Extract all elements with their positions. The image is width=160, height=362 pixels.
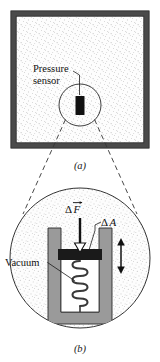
figure-canvas: Pressure sensor (a) (0, 0, 160, 362)
panel-b-label-delta-f: Δ F (65, 201, 82, 215)
delta-f-delta-char: Δ (65, 203, 72, 215)
delta-a-delta-char: Δ (101, 216, 108, 228)
panel-b-label-delta-a: Δ A (101, 216, 117, 228)
caption-b: (b) (74, 343, 87, 355)
panel-b-group: Δ F Δ A Vacuum (b) (5, 188, 150, 355)
panel-b-vacuum-chamber (61, 258, 99, 312)
panel-a-label-pressure: Pressure (33, 63, 69, 74)
panel-a-group: Pressure sensor (a) (11, 11, 149, 172)
delta-a-symbol-char: A (109, 216, 117, 228)
panel-b-label-vacuum: Vacuum (5, 257, 39, 268)
panel-a-label-sensor: sensor (33, 75, 60, 86)
caption-a: (a) (74, 160, 87, 172)
pressure-sensor-figure: Pressure sensor (a) (0, 0, 160, 362)
panel-a-sensor-body (76, 96, 85, 115)
delta-f-symbol-char: F (73, 203, 81, 215)
